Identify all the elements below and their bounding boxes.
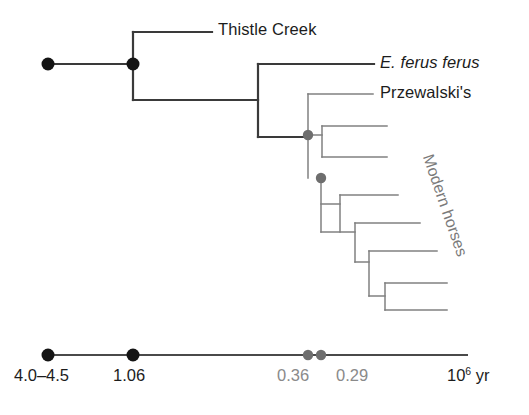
axis-tick-dot-tick-0.36 — [303, 350, 313, 360]
tip-label-przewalskis: Przewalski's — [380, 83, 471, 102]
axis-tick-dot-tick-0.29 — [316, 350, 326, 360]
tip-label-e-ferus-ferus: E. ferus ferus — [380, 53, 480, 72]
time-axis-group — [42, 349, 469, 362]
main-branch-group — [48, 32, 374, 137]
tree-node-split-0.29 — [316, 173, 326, 183]
axis-tick-dot-tick-4.0-4.5 — [42, 349, 55, 362]
axis-unit-label: 106 yr — [447, 366, 490, 385]
phylogenetic-tree-figure: Thistle Creek E. ferus ferus Przewalski'… — [0, 0, 529, 415]
axis-tick-label-0-36: 0.36 — [277, 366, 309, 385]
axis-tick-label-1-06: 1.06 — [113, 366, 145, 385]
axis-unit-suffix: yr — [471, 366, 489, 384]
tip-label-thistle-creek: Thistle Creek — [218, 20, 317, 39]
modern-horses-branch-group — [308, 94, 447, 310]
tree-node-group — [42, 58, 327, 184]
axis-tick-label-0-29: 0.29 — [336, 366, 368, 385]
axis-tick-label-4-0-4-5: 4.0–4.5 — [14, 366, 69, 385]
tree-node-root — [42, 58, 55, 71]
tree-node-split-0.36 — [303, 130, 313, 140]
axis-tick-dot-tick-1.06 — [127, 349, 140, 362]
axis-unit-base: 10 — [447, 366, 465, 384]
tree-node-split-1.06 — [127, 58, 140, 71]
